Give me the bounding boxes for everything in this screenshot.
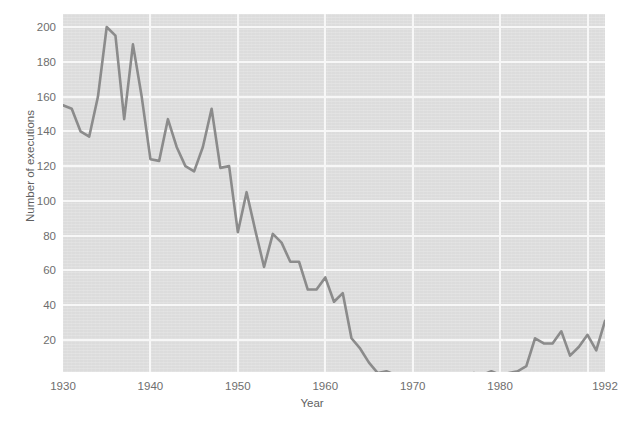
x-tick-label-1970: 1970 [383,380,443,392]
y-tick-label-200: 200 [22,21,56,33]
x-tick-label-1992: 1992 [575,380,624,392]
x-axis-title: Year [282,397,342,409]
y-axis-title: Number of executions [24,86,36,246]
y-tick-label-60: 60 [22,264,56,276]
x-tick-label-1960: 1960 [295,380,355,392]
y-axis-tick-labels: 20406080100120140160180200 [0,0,624,422]
y-tick-label-180: 180 [22,56,56,68]
x-tick-label-1980: 1980 [470,380,530,392]
y-tick-label-40: 40 [22,299,56,311]
chart-figure: 20406080100120140160180200 1930194019501… [0,0,624,422]
y-tick-label-20: 20 [22,334,56,346]
x-tick-label-1930: 1930 [33,380,93,392]
x-tick-label-1940: 1940 [120,380,180,392]
x-tick-label-1950: 1950 [208,380,268,392]
